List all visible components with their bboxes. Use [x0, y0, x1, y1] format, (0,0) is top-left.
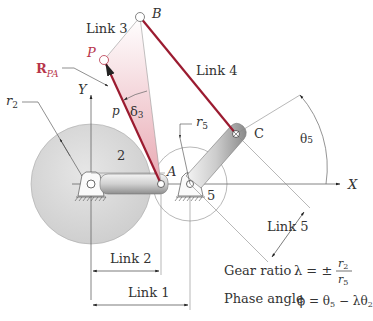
label-b: B [151, 6, 162, 21]
label-p: P [86, 45, 96, 60]
label-link5: Link 5 [267, 219, 308, 234]
label-gear2: 2 [117, 148, 125, 163]
phase-angle-equation: ϕ = θ5 − λθ2 [297, 294, 373, 309]
label-r-pa: RPA [36, 61, 59, 79]
joint-p [100, 56, 109, 65]
label-c: C [254, 126, 264, 141]
joint-b [136, 13, 145, 22]
gear-ratio-lhs: λ = ± [294, 263, 332, 278]
gear-ratio-label: Gear ratio [224, 263, 292, 278]
label-link3: Link 3 [86, 21, 127, 36]
label-link2: Link 2 [110, 251, 151, 266]
label-y-axis: Y [78, 82, 88, 97]
phase-angle-label: Phase angle [224, 291, 304, 306]
label-gear5: 5 [207, 188, 215, 203]
label-a: A [166, 164, 176, 179]
label-r2: r2 [6, 93, 18, 110]
label-r5: r5 [196, 114, 208, 131]
label-theta5: θ5 [300, 132, 313, 146]
gear-ratio-numerator: r2 [338, 257, 348, 271]
joint-a [158, 181, 165, 188]
label-link1: Link 1 [128, 285, 169, 300]
label-p-lower: p [112, 104, 120, 118]
gear-ratio-denominator: r5 [338, 273, 348, 287]
five-bar-linkage-diagram: Link 3 B P RPA p δ3 Y X r2 r5 2 A 5 Link… [0, 0, 373, 321]
label-x-axis: X [347, 177, 358, 192]
label-link4: Link 4 [196, 63, 237, 78]
